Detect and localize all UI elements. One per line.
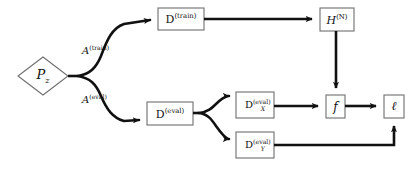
node-d-eval-x-shape (236, 92, 274, 118)
diagram-graphics (0, 0, 414, 173)
edge-d-eval-to-d-eval-x (199, 96, 229, 113)
node-loss-shape (384, 95, 404, 118)
edge-fork-to-d-eval (78, 76, 139, 121)
node-f-shape (326, 95, 345, 118)
node-d-eval-y-shape (236, 132, 274, 158)
edge-fork-to-d-train (78, 20, 150, 76)
node-d-train-shape (158, 8, 204, 30)
edge-d-eval-to-d-eval-y (199, 113, 229, 139)
node-d-eval-shape (147, 102, 193, 125)
node-pz-shape (18, 57, 68, 95)
node-h-n-shape (320, 8, 354, 31)
edge-d-eval-y-to-loss (274, 126, 394, 145)
diagram-canvas: Pz D(train) H(N) D(eval) D(eval)X D(eval… (0, 0, 414, 173)
